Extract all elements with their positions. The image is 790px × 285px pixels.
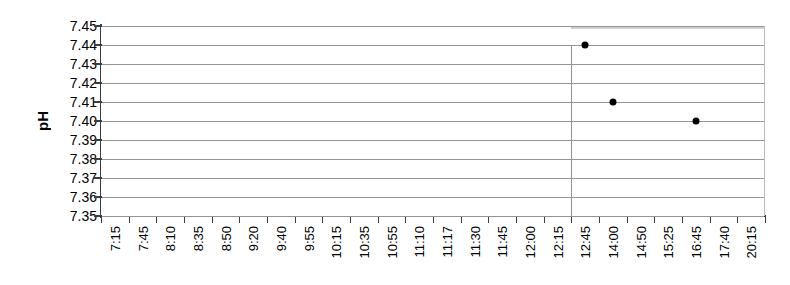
x-axis-tick-label: 11:17 [441, 226, 454, 258]
horizontal-gridline [101, 83, 764, 84]
x-axis-tick-label: 8:50 [220, 226, 233, 251]
x-axis-tick-label: 9:20 [247, 226, 260, 251]
x-axis-tick-mark [405, 217, 406, 223]
x-axis-tick-mark [433, 217, 434, 223]
x-axis-tick-label: 12:00 [524, 226, 537, 259]
y-axis-tick-mark [94, 101, 102, 103]
horizontal-gridline [101, 64, 764, 65]
horizontal-gridline [101, 121, 764, 122]
x-axis-tick-label: 8:35 [192, 226, 205, 251]
y-axis-tick-label: 7.36 [52, 190, 97, 204]
x-axis-tick-label: 12:15 [552, 226, 565, 259]
y-axis-tick-label: 7.39 [52, 133, 97, 147]
data-point-marker [609, 99, 616, 106]
x-axis-tick-label: 9:40 [275, 226, 288, 251]
y-axis-tick-mark [94, 177, 102, 179]
x-axis-tick-label: 14:50 [635, 226, 648, 259]
x-axis-tick-label: 10:55 [386, 226, 399, 259]
x-axis-tick-label: 7:15 [109, 226, 122, 251]
y-axis-tick-label: 7.40 [52, 114, 97, 128]
x-axis-tick-mark [101, 217, 102, 223]
x-axis-tick-mark [184, 217, 185, 223]
x-axis-tick-label: 11:45 [496, 226, 509, 258]
y-axis-tick-mark [94, 63, 102, 65]
y-axis-tick-labels: 7.457.447.437.427.417.407.397.387.377.36… [52, 26, 97, 216]
x-axis-tick-mark [599, 217, 600, 223]
y-axis-tick-mark [94, 139, 102, 141]
x-axis-tick-mark [378, 217, 379, 223]
x-axis-tick-label: 11:30 [469, 226, 482, 258]
horizontal-gridline [101, 45, 764, 46]
y-axis-tick-mark [94, 196, 102, 198]
x-axis-tick-label: 10:15 [330, 226, 343, 259]
horizontal-gridline [101, 197, 764, 198]
x-axis-tick-mark [571, 217, 572, 223]
x-axis-tick-mark [350, 217, 351, 223]
y-axis-tick-mark [94, 158, 102, 160]
x-axis-tick-mark [710, 217, 711, 223]
x-axis-tick-label: 7:45 [137, 226, 150, 251]
x-axis-tick-label: 12:45 [579, 226, 592, 259]
x-axis-tick-label: 9:55 [303, 226, 316, 251]
x-axis-tick-mark [654, 217, 655, 223]
horizontal-gridline [101, 140, 764, 141]
x-axis-tick-mark [544, 217, 545, 223]
x-axis-tick-mark [295, 217, 296, 223]
y-axis-tick-label: 7.35 [52, 209, 97, 223]
y-axis-tick-label: 7.41 [52, 95, 97, 109]
x-axis-tick-label: 17:40 [718, 226, 731, 259]
plot-area [101, 26, 765, 216]
x-axis-tick-label: 11:10 [413, 226, 426, 258]
horizontal-gridline [101, 159, 764, 160]
y-axis-tick-label: 7.43 [52, 57, 97, 71]
x-axis-tick-mark [267, 217, 268, 223]
y-axis-tick-mark [94, 25, 102, 27]
x-axis-tick-label: 10:35 [358, 226, 371, 259]
data-point-marker [582, 42, 589, 49]
y-axis-tick-label: 7.42 [52, 76, 97, 90]
ph-scatter-chart: pH 7.457.447.437.427.417.407.397.387.377… [0, 0, 790, 285]
x-axis-tick-mark [516, 217, 517, 223]
x-axis-tick-mark [156, 217, 157, 223]
x-axis-tick-mark [461, 217, 462, 223]
x-axis-tick-mark [212, 217, 213, 223]
x-axis-tick-label: 14:00 [607, 226, 620, 259]
vertical-divider [571, 45, 572, 216]
x-axis-tick-labels: 7:157:458:108:358:509:209:409:5510:1510:… [101, 226, 765, 284]
x-axis-tick-label: 8:10 [164, 226, 177, 251]
x-axis-tick-mark [737, 217, 738, 223]
x-axis-tick-mark [682, 217, 683, 223]
y-axis-tick-label: 7.38 [52, 152, 97, 166]
x-axis-tick-mark [239, 217, 240, 223]
x-axis-tick-label: 20:15 [745, 226, 758, 259]
y-axis-tick-label: 7.45 [52, 19, 97, 33]
x-axis-tick-mark [488, 217, 489, 223]
y-axis-tick-mark [94, 44, 102, 46]
x-axis-tick-mark [322, 217, 323, 223]
y-axis-tick-mark [94, 120, 102, 122]
x-axis-tick-label: 15:25 [662, 226, 675, 259]
horizontal-gridline [101, 102, 764, 103]
top-gray-band [571, 27, 765, 29]
x-axis-tick-mark [627, 217, 628, 223]
x-axis-tick-mark [765, 217, 766, 223]
data-point-marker [692, 118, 699, 125]
y-axis-tick-label: 7.37 [52, 171, 97, 185]
x-axis-tick-label: 16:45 [690, 226, 703, 259]
y-axis-tick-label: 7.44 [52, 38, 97, 52]
x-axis-tick-mark [129, 217, 130, 223]
horizontal-gridline [101, 178, 764, 179]
y-axis-tick-mark [94, 82, 102, 84]
